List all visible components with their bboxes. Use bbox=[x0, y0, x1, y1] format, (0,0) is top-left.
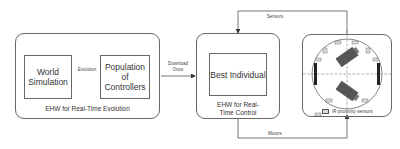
best-individual-label: Best Individual bbox=[210, 70, 265, 80]
motors-label: Motors bbox=[255, 131, 295, 137]
download-label-line2: Once bbox=[163, 67, 193, 73]
control-caption: EHW for Real- Time Control bbox=[196, 101, 280, 117]
ir-sensor-legend-text: IR proximity sensors bbox=[332, 109, 373, 114]
control-caption-line2: Time Control bbox=[196, 109, 280, 117]
world-simulation-box: World Simulation bbox=[24, 55, 72, 99]
world-simulation-label: World Simulation bbox=[25, 67, 71, 87]
best-individual-box: Best Individual bbox=[209, 53, 267, 96]
evolution-label: Evolution bbox=[74, 67, 100, 73]
download-label: Download Once bbox=[163, 61, 193, 73]
sensors-label: Sensors bbox=[255, 14, 295, 20]
robot-frame bbox=[302, 34, 392, 117]
ir-sensor-icon bbox=[322, 109, 329, 114]
population-label: Population of Controllers bbox=[101, 62, 149, 92]
evolution-caption: EHW for Real-Time Evolution bbox=[15, 105, 160, 113]
control-caption-line1: EHW for Real- bbox=[196, 101, 280, 109]
population-box: Population of Controllers bbox=[100, 55, 150, 99]
ir-sensor-legend: IR proximity sensors bbox=[322, 109, 388, 115]
